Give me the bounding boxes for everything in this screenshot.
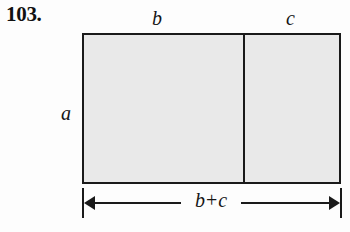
rectangle-divider-line <box>243 35 245 182</box>
label-c-top: c <box>286 8 295 28</box>
label-a-side: a <box>61 103 71 123</box>
arrow-head-left-icon <box>84 196 95 210</box>
extension-tick-left <box>82 188 84 218</box>
dimension-label: b+c <box>181 190 241 210</box>
problem-number: 103. <box>6 4 42 25</box>
dimension-operator: + <box>205 189 218 211</box>
dimension-term-left: b <box>195 189 205 211</box>
arrow-head-right-icon <box>329 196 340 210</box>
extension-tick-right <box>340 188 342 218</box>
dimension-line-right-segment <box>240 202 331 204</box>
figure-container: 103. b c a b+c <box>0 0 350 232</box>
label-b-top: b <box>152 8 162 28</box>
rectangle-shape <box>82 33 341 184</box>
dimension-line-left-segment <box>92 202 182 204</box>
dimension-term-right: c <box>218 189 227 211</box>
